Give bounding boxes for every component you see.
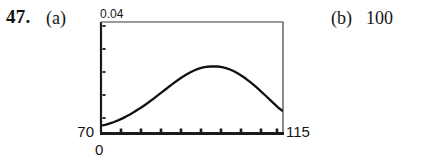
y-axis-min-label: 0 bbox=[95, 142, 103, 157]
calculator-plot-window: 0.04 70 0 115 bbox=[64, 4, 324, 162]
y-axis-ticks bbox=[103, 26, 106, 118]
y-axis-max-label: 0.04 bbox=[100, 8, 123, 20]
figure-container: 47. (a) bbox=[0, 0, 426, 164]
part-a-label: (a) bbox=[46, 7, 66, 29]
density-curve bbox=[102, 66, 282, 125]
part-b-answer: 100 bbox=[366, 7, 393, 29]
plot-graphic bbox=[64, 4, 324, 162]
problem-number: 47. bbox=[6, 6, 30, 28]
x-axis-min-label: 70 bbox=[64, 124, 94, 139]
x-axis-ticks bbox=[121, 129, 277, 133]
part-b-label: (b) bbox=[331, 7, 352, 29]
x-axis-max-label: 115 bbox=[286, 124, 310, 139]
